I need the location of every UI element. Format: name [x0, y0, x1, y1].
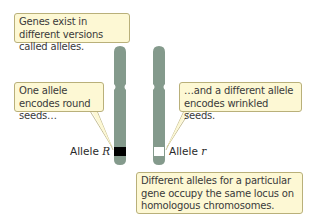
allele-R-label: Allele R [70, 145, 110, 157]
allele-r-symbol: r [201, 145, 206, 157]
chromosome-left [114, 46, 126, 165]
callout-one-allele: One allele encodes round seeds… [14, 82, 104, 112]
callout-different-allele: …and a different allele encodes wrinkled… [179, 82, 302, 112]
allele-r-prefix: Allele [169, 145, 201, 157]
allele-r-band [154, 147, 164, 156]
callout-genes-exist: Genes exist in different versions called… [14, 13, 130, 43]
allele-R-band [114, 147, 126, 156]
allele-R-prefix: Allele [70, 145, 102, 157]
allele-R-symbol: R [102, 145, 110, 157]
callout-locus: Different alleles for a particular gene … [136, 172, 303, 214]
chromosome-right [153, 46, 165, 165]
allele-r-label: Allele r [169, 145, 206, 157]
